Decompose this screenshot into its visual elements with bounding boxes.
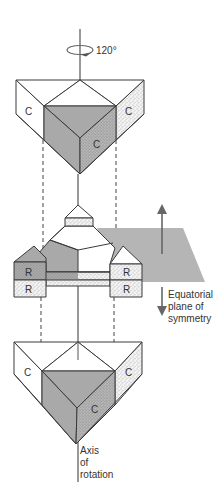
diagram: 120° C C C — [0, 0, 224, 504]
axis-label-line1: Axis — [80, 445, 99, 456]
subunit-label-r: R — [25, 267, 32, 278]
top-catalytic-trimer — [16, 80, 144, 174]
axis-label-line2: of — [80, 457, 89, 468]
plane-label-line2: plane of — [168, 301, 204, 312]
subunit-label-c: C — [125, 106, 132, 117]
subunit-label-r: R — [123, 267, 130, 278]
subunit-label-r: R — [25, 284, 32, 295]
bottom-catalytic-trimer — [14, 342, 142, 444]
down-arrow-icon — [157, 287, 167, 316]
plane-label-line1: Equatorial — [168, 289, 213, 300]
subunit-label-c: C — [91, 404, 98, 415]
rotation-angle-label: 120° — [96, 45, 117, 56]
subunit-label-c: C — [25, 106, 32, 117]
subunit-label-r: R — [123, 284, 130, 295]
plane-label-line3: symmetry — [168, 313, 211, 324]
subunit-label-c: C — [93, 139, 100, 150]
axis-label-line3: rotation — [80, 469, 113, 480]
subunit-label-c: C — [125, 367, 132, 378]
subunit-label-c: C — [24, 367, 31, 378]
